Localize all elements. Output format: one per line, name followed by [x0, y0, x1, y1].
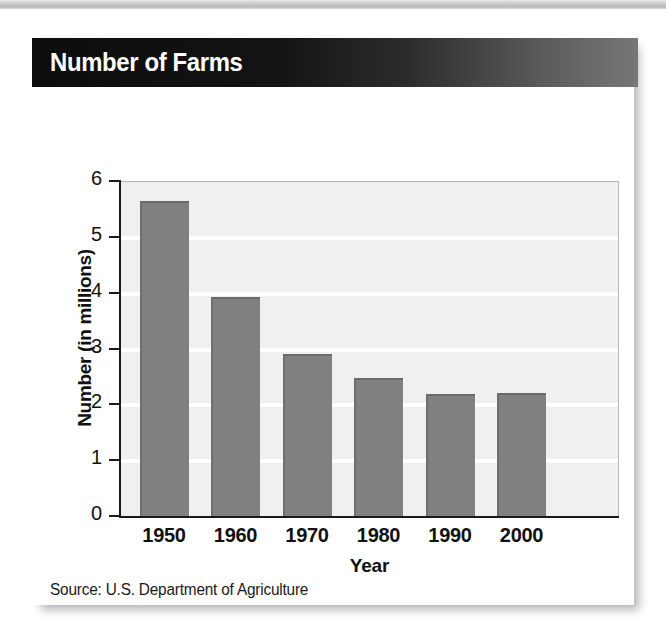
- y-tick-label-wrap: 4: [72, 293, 102, 294]
- y-tick-label-wrap: 5: [72, 237, 102, 238]
- x-axis-line: [119, 516, 619, 518]
- gridline: [121, 348, 618, 352]
- y-tick-label: 2: [72, 390, 102, 413]
- bar: [283, 354, 332, 516]
- y-tick-label: 0: [72, 502, 102, 525]
- page-title: Number of Farms: [50, 47, 243, 77]
- y-tick-label: 4: [72, 279, 102, 302]
- y-tick-mark: [109, 348, 120, 350]
- x-tick-label: 1950: [124, 524, 204, 547]
- y-tick-label-wrap: 0: [72, 516, 102, 517]
- bar: [140, 201, 189, 516]
- y-tick-mark: [109, 515, 120, 517]
- bar: [497, 393, 546, 516]
- x-axis-title: Year: [121, 555, 618, 577]
- bar-chart: Number (in millions) 0123456 19501960197…: [32, 87, 634, 557]
- x-tick-label: 1990: [410, 524, 490, 547]
- y-tick-mark: [109, 403, 120, 405]
- y-tick-label-wrap: 2: [72, 404, 102, 405]
- gridline: [121, 292, 618, 296]
- figure-body: Number (in millions) 0123456 19501960197…: [32, 87, 634, 605]
- y-tick-label-wrap: 6: [72, 181, 102, 182]
- bar: [211, 297, 260, 516]
- page-top-strip: [0, 0, 666, 9]
- y-tick-mark: [109, 180, 120, 182]
- x-tick-label: 1970: [267, 524, 347, 547]
- x-tick-label: 1960: [196, 524, 276, 547]
- y-tick-label: 1: [72, 446, 102, 469]
- gridline: [121, 236, 618, 240]
- bar: [426, 394, 475, 516]
- x-tick-label: 1980: [339, 524, 419, 547]
- y-tick-label: 5: [72, 223, 102, 246]
- y-tick-label-wrap: 1: [72, 460, 102, 461]
- source-note: Source: U.S. Department of Agriculture: [50, 581, 308, 599]
- y-tick-label: 3: [72, 335, 102, 358]
- y-tick-mark: [109, 459, 120, 461]
- y-tick-mark: [109, 292, 120, 294]
- x-tick-label: 2000: [482, 524, 562, 547]
- y-tick-label-wrap: 3: [72, 349, 102, 350]
- y-tick-mark: [109, 236, 120, 238]
- figure-card: Number of Farms Number (in millions) 012…: [32, 38, 634, 605]
- y-tick-label: 6: [72, 167, 102, 190]
- figure-header: Number of Farms: [32, 38, 638, 87]
- bar: [354, 378, 403, 516]
